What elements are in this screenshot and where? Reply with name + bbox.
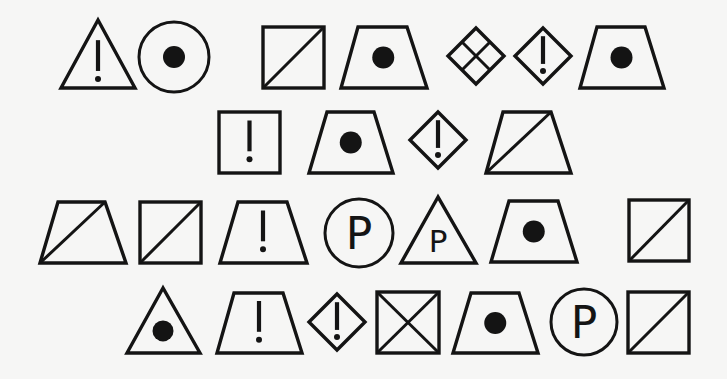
filled-dot-icon — [372, 47, 394, 69]
exclamation-dot-icon — [435, 152, 441, 158]
diagonal-line — [140, 202, 201, 263]
filled-dot-icon — [611, 47, 633, 69]
letter-p-glyph: P — [571, 297, 598, 348]
filled-dot-icon — [340, 132, 362, 154]
filled-dot-icon — [153, 320, 174, 341]
trapezoid-dot-symbol — [453, 293, 538, 353]
trapezoid-exclamation-symbol — [217, 293, 302, 353]
exclamation-dot-icon — [247, 156, 253, 162]
trapezoid-dot-symbol — [580, 27, 664, 88]
diagonal-line — [263, 27, 324, 88]
diamond-exclamation-symbol — [515, 28, 571, 84]
trapezoid-dot-symbol — [309, 112, 393, 173]
diagonal-line — [628, 292, 689, 353]
filled-dot-icon — [523, 221, 545, 243]
square-diagonal-symbol — [629, 200, 689, 261]
exclamation-dot-icon — [95, 76, 101, 82]
square-diagonal-symbol — [263, 27, 324, 88]
trapezoid-dot-symbol — [491, 201, 577, 262]
trapezoid-outline — [40, 202, 126, 263]
row-2 — [219, 112, 571, 173]
triangle-letter-p-symbol: P — [401, 197, 476, 263]
exclamation-dot-icon — [260, 246, 266, 252]
exclamation-dot-icon — [334, 334, 340, 340]
trapezoid-diagonal-symbol — [486, 112, 571, 173]
triangle-dot-symbol — [127, 288, 200, 353]
letter-p-glyph: P — [346, 208, 373, 259]
diamond-exclamation-symbol — [410, 112, 466, 168]
square-exclamation-symbol — [219, 112, 280, 173]
square-diagonal-symbol — [140, 202, 201, 263]
diamond-exclamation-symbol — [309, 294, 365, 350]
trapezoid-diagonal-symbol — [40, 202, 126, 263]
row-3: PP — [40, 197, 689, 267]
row-1 — [61, 20, 664, 92]
circle-letter-p-symbol: P — [551, 289, 617, 355]
triangle-exclamation-symbol — [61, 20, 135, 88]
trapezoid-outline — [486, 112, 571, 173]
exclamation-dot-icon — [540, 68, 546, 74]
circle-dot-symbol — [139, 22, 209, 92]
filled-dot-icon — [484, 312, 506, 334]
trapezoid-dot-symbol — [341, 27, 427, 88]
filled-dot-icon — [163, 46, 185, 68]
trapezoid-exclamation-symbol — [220, 202, 307, 263]
row-4: P — [127, 288, 689, 355]
diagonal-line — [629, 200, 689, 261]
diamond-grid-symbol — [448, 28, 504, 84]
circle-letter-p-symbol: P — [325, 199, 393, 267]
exclamation-dot-icon — [256, 337, 262, 343]
symbol-chart: PPP — [0, 0, 727, 379]
square-diagonal-symbol — [628, 292, 689, 353]
letter-p-glyph: P — [429, 223, 448, 259]
square-cross-symbol — [377, 292, 439, 353]
